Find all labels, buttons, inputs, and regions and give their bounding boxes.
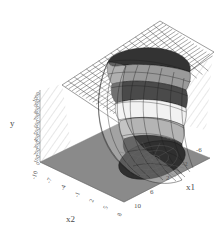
x1-tick-label: 10 [134, 202, 142, 210]
surface-plot-canvas: 1000 900 800 700 600 500 400 300 200 100… [0, 0, 218, 250]
y-axis-title: y [10, 118, 15, 128]
x1-tick-label: 2 [166, 174, 170, 182]
x1-axis-title: x1 [186, 182, 195, 192]
x2-axis-title: x2 [66, 214, 75, 224]
x1-tick-label: -6 [196, 146, 202, 154]
x1-tick-label: -2 [182, 160, 188, 168]
x1-tick-label: 6 [150, 188, 154, 196]
